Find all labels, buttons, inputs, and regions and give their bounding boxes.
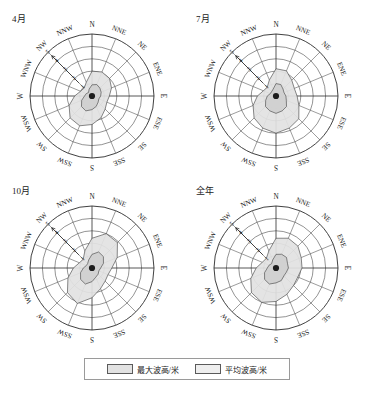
rose-plot-area: NNNENEENEEESESESSESSSWSWWSWWWNWNWNNW1234… (184, 180, 368, 356)
direction-label-se: SE (136, 312, 148, 324)
direction-label-sw: SW (219, 139, 232, 152)
direction-label-wnw: WNW (203, 58, 218, 79)
rose-panel-october: 10月 NNNENEENEEESESESSESSSWSWWSWWWNWNWNNW… (0, 180, 184, 356)
direction-label-ne: NE (320, 212, 333, 225)
direction-label-ne: NE (136, 40, 149, 53)
rose-panel-annual: 全年 NNNENEENEEESESESSESSSWSWWSWWWNWNWNNW1… (184, 180, 368, 356)
direction-label-ssw: SSW (56, 327, 73, 340)
legend-label: 平均波高/米 (225, 364, 267, 375)
direction-label-s: S (90, 335, 94, 343)
direction-label-e: E (343, 94, 351, 99)
direction-label-sw: SW (219, 311, 232, 324)
direction-label-e: E (343, 266, 351, 271)
direction-label-ne: NE (136, 212, 149, 225)
direction-label-n: N (273, 21, 279, 29)
direction-label-wsw: WSW (203, 285, 217, 304)
center-hub (89, 265, 95, 271)
legend-item-max: 最大波高/米 (107, 364, 179, 375)
direction-label-ese: ESE (335, 116, 348, 131)
radial-axis-arrow (236, 228, 263, 255)
direction-label-ssw: SSW (240, 327, 257, 340)
direction-label-nne: NNE (111, 196, 128, 209)
legend: 最大波高/米 平均波高/米 (84, 358, 290, 380)
direction-label-sse: SSE (111, 155, 126, 167)
direction-label-ssw: SSW (240, 155, 257, 168)
direction-label-w: W (17, 264, 25, 271)
direction-label-n: N (89, 193, 95, 201)
rose-svg: NNNENEENEEESESESSESSSWSWWSWWWNWNWNNW1234… (0, 8, 184, 184)
direction-label-ene: ENE (335, 233, 348, 250)
direction-label-w: W (17, 92, 25, 99)
direction-label-nnw: NNW (239, 23, 258, 37)
direction-label-wsw: WSW (203, 113, 217, 132)
center-hub (273, 265, 279, 271)
direction-label-wsw: WSW (19, 285, 33, 304)
wave-rose-figure: 4月 NNNENEENEEESESESSESSSWSWWSWWWNWNWNNW1… (0, 0, 368, 396)
direction-label-sw: SW (35, 311, 48, 324)
direction-label-nnw: NNW (239, 195, 258, 209)
direction-label-sse: SSE (111, 327, 126, 339)
legend-item-avg: 平均波高/米 (195, 364, 267, 375)
direction-label-nne: NNE (295, 196, 312, 209)
direction-label-s: S (274, 335, 278, 343)
direction-label-ene: ENE (335, 61, 348, 78)
center-hub (273, 93, 279, 99)
rose-plot-area: NNNENEENEEESESESSESSSWSWWSWWWNWNWNNW1234… (0, 180, 184, 356)
direction-label-ese: ESE (151, 116, 164, 131)
direction-label-n: N (273, 193, 279, 201)
direction-label-s: S (90, 163, 94, 171)
avg-wave-height-swatch (195, 364, 221, 374)
direction-label-ene: ENE (151, 233, 164, 250)
direction-label-ese: ESE (335, 288, 348, 303)
direction-label-se: SE (320, 312, 332, 324)
direction-label-wnw: WNW (203, 230, 218, 251)
direction-label-se: SE (320, 140, 332, 152)
direction-label-ene: ENE (151, 61, 164, 78)
direction-label-se: SE (136, 140, 148, 152)
direction-label-wnw: WNW (19, 230, 34, 251)
direction-label-sse: SSE (295, 327, 310, 339)
direction-label-e: E (159, 266, 167, 271)
radial-axis-arrow (236, 56, 263, 83)
max-wave-height-swatch (107, 364, 133, 374)
direction-label-nne: NNE (111, 24, 128, 37)
rose-svg: NNNENEENEEESESESSESSSWSWWSWWWNWNWNNW1234… (184, 8, 368, 184)
direction-label-w: W (201, 92, 209, 99)
direction-label-wnw: WNW (19, 58, 34, 79)
direction-label-nne: NNE (295, 24, 312, 37)
direction-label-w: W (201, 264, 209, 271)
direction-label-sw: SW (35, 139, 48, 152)
rose-svg: NNNENEENEEESESESSESSSWSWWSWWWNWNWNNW1234… (184, 180, 368, 356)
direction-label-ese: ESE (151, 288, 164, 303)
direction-label-wsw: WSW (19, 113, 33, 132)
direction-label-s: S (274, 163, 278, 171)
rose-svg: NNNENEENEEESESESSESSSWSWWSWWWNWNWNNW1234… (0, 180, 184, 356)
direction-label-nnw: NNW (55, 23, 74, 37)
direction-label-nnw: NNW (55, 195, 74, 209)
rose-panel-april: 4月 NNNENEENEEESESESSESSSWSWWSWWWNWNWNNW1… (0, 8, 184, 184)
legend-label: 最大波高/米 (137, 364, 179, 375)
center-hub (89, 93, 95, 99)
rose-plot-area: NNNENEENEEESESESSESSSWSWWSWWWNWNWNNW1234… (184, 8, 368, 184)
rose-panel-july: 7月 NNNENEENEEESESESSESSSWSWWSWWWNWNWNNW1… (184, 8, 368, 184)
direction-label-n: N (89, 21, 95, 29)
rose-plot-area: NNNENEENEEESESESSESSSWSWWSWWWNWNWNNW1234… (0, 8, 184, 184)
direction-label-ne: NE (320, 40, 333, 53)
radial-axis-arrow (52, 56, 79, 83)
direction-label-e: E (159, 94, 167, 99)
radial-axis-arrow (52, 228, 79, 255)
direction-label-sse: SSE (295, 155, 310, 167)
direction-label-ssw: SSW (56, 155, 73, 168)
